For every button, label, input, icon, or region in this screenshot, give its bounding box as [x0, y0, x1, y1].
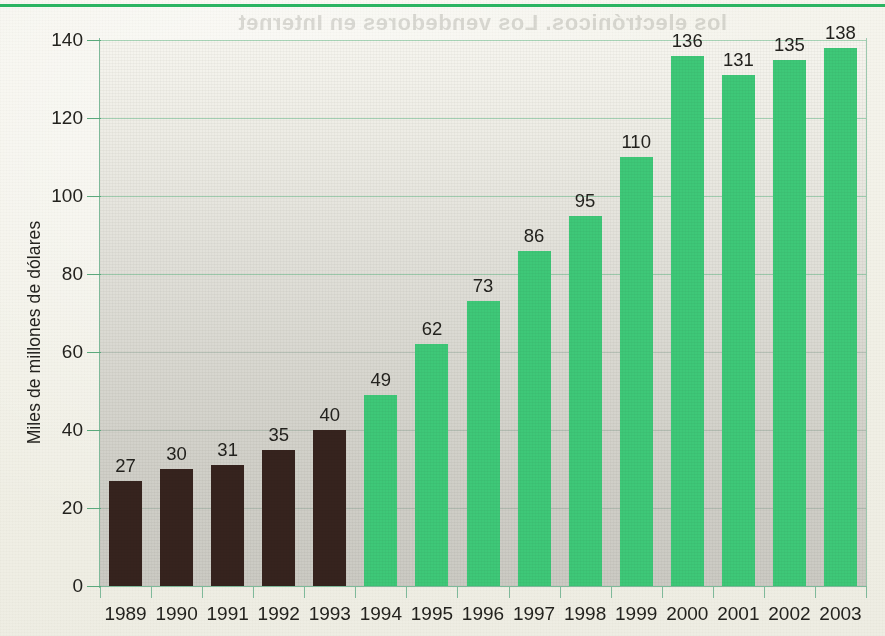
y-tick-mark-120	[87, 118, 101, 119]
bar-1990	[160, 469, 193, 586]
bar-value-label-2000: 136	[661, 30, 713, 52]
bar-value-label-1995: 62	[406, 318, 458, 340]
x-tick-mark-3	[253, 587, 254, 598]
x-tick-mark-9	[560, 587, 561, 598]
x-tick-label-2001: 2001	[710, 603, 766, 625]
chart-page: los electrónicos. Los vendedores en Inte…	[0, 0, 885, 636]
bar-value-label-1992: 35	[253, 424, 305, 446]
x-tick-label-1995: 1995	[404, 603, 460, 625]
x-tick-mark-8	[509, 587, 510, 598]
x-tick-mark-7	[457, 587, 458, 598]
x-tick-mark-5	[355, 587, 356, 598]
x-tick-mark-11	[662, 587, 663, 598]
gridline-140	[100, 40, 866, 41]
bar-value-label-1996: 73	[457, 275, 509, 297]
bar-value-label-1990: 30	[151, 443, 203, 465]
y-tick-mark-60	[87, 352, 101, 353]
bar-2003	[824, 48, 857, 586]
y-tick-mark-20	[87, 508, 101, 509]
bar-value-label-1993: 40	[304, 404, 356, 426]
bar-value-label-2001: 131	[712, 49, 764, 71]
x-tick-label-2002: 2002	[761, 603, 817, 625]
bar-value-label-1989: 27	[100, 455, 152, 477]
x-tick-label-1991: 1991	[200, 603, 256, 625]
x-tick-mark-1	[151, 587, 152, 598]
y-tick-mark-100	[87, 196, 101, 197]
x-tick-mark-4	[304, 587, 305, 598]
bar-value-label-1999: 110	[610, 131, 662, 153]
bar-2001	[722, 75, 755, 586]
bar-value-label-2002: 135	[763, 34, 815, 56]
bar-value-label-1991: 31	[202, 439, 254, 461]
bar-value-label-1998: 95	[559, 190, 611, 212]
bar-1992	[262, 450, 295, 587]
bar-2000	[671, 56, 704, 586]
x-tick-label-1997: 1997	[506, 603, 562, 625]
y-tick-label-40: 40	[21, 419, 83, 441]
y-tick-label-20: 20	[21, 497, 83, 519]
y-tick-label-120: 120	[21, 107, 83, 129]
y-tick-mark-140	[87, 40, 101, 41]
bar-value-label-1997: 86	[508, 225, 560, 247]
plot-right-edge	[866, 38, 867, 588]
x-tick-mark-2	[202, 587, 203, 598]
x-tick-label-1990: 1990	[149, 603, 205, 625]
y-tick-mark-40	[87, 430, 101, 431]
bar-value-label-2003: 138	[814, 22, 866, 44]
bar-1993	[313, 430, 346, 586]
bar-2002	[773, 60, 806, 587]
bar-value-label-1994: 49	[355, 369, 407, 391]
y-tick-label-100: 100	[21, 185, 83, 207]
bar-1989	[109, 481, 142, 586]
x-tick-label-1999: 1999	[608, 603, 664, 625]
x-tick-mark-6	[406, 587, 407, 598]
x-tick-label-1994: 1994	[353, 603, 409, 625]
y-tick-label-140: 140	[21, 29, 83, 51]
y-tick-label-80: 80	[21, 263, 83, 285]
top-green-rule	[0, 4, 885, 7]
bar-1994	[364, 395, 397, 586]
x-tick-mark-13	[764, 587, 765, 598]
x-tick-mark-14	[815, 587, 816, 598]
y-axis-line	[99, 38, 100, 588]
x-tick-mark-0	[100, 587, 101, 598]
bar-1999	[620, 157, 653, 586]
plot-area	[100, 40, 866, 586]
bleed-through-text-line-1: los electrónicos. Los vendedores en Inte…	[238, 10, 727, 36]
x-tick-label-1998: 1998	[557, 603, 613, 625]
bar-1991	[211, 465, 244, 586]
x-tick-mark-12	[713, 587, 714, 598]
x-tick-mark-15	[866, 587, 867, 598]
y-tick-label-0: 0	[21, 575, 83, 597]
y-tick-mark-80	[87, 274, 101, 275]
bar-1997	[518, 251, 551, 586]
y-tick-mark-0	[87, 586, 101, 587]
x-tick-label-2003: 2003	[812, 603, 868, 625]
bar-1996	[467, 301, 500, 586]
x-axis-line	[99, 586, 867, 587]
x-tick-label-1989: 1989	[98, 603, 154, 625]
x-tick-label-1996: 1996	[455, 603, 511, 625]
x-tick-mark-10	[611, 587, 612, 598]
bar-1995	[415, 344, 448, 586]
x-tick-label-2000: 2000	[659, 603, 715, 625]
bar-1998	[569, 216, 602, 587]
x-tick-label-1993: 1993	[302, 603, 358, 625]
x-tick-label-1992: 1992	[251, 603, 307, 625]
y-tick-label-60: 60	[21, 341, 83, 363]
